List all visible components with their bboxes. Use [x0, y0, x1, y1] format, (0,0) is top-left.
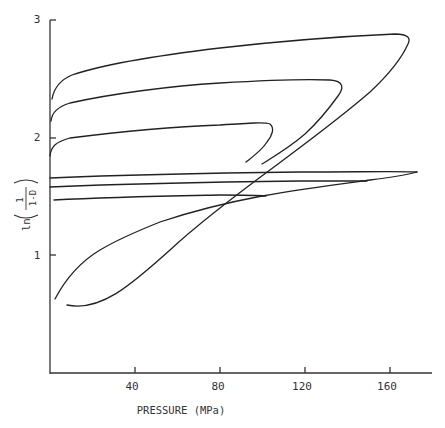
series-lower-rising — [55, 172, 417, 299]
x-tick-label-40: 40 — [125, 380, 138, 393]
series-upper-loop-3 — [50, 123, 273, 162]
y-tick-label-3: 3 — [34, 13, 41, 26]
y-axis-title-ln: ln — [20, 218, 32, 231]
y-axis-title-denominator: 1-D — [28, 190, 38, 206]
chart: 3 2 1 40 80 120 160 PRESSURE (MPa) ln 1 … — [0, 0, 445, 428]
y-axis-title-numerator: 1 — [15, 197, 25, 202]
x-axis-title: PRESSURE (MPa) — [137, 404, 226, 416]
x-tick-label-80: 80 — [211, 380, 224, 393]
series-lower-flat-1 — [50, 172, 417, 178]
series-lower-flat-2 — [50, 181, 367, 187]
y-axis-title-paren-right — [14, 180, 38, 183]
series-upper-loop-2 — [51, 80, 342, 164]
x-tick-label-120: 120 — [292, 380, 312, 393]
series-upper-loop-1 — [52, 34, 409, 306]
y-tick-label-2: 2 — [34, 131, 41, 144]
plot-curves — [50, 34, 417, 306]
x-axis: 40 80 120 160 PRESSURE (MPa) — [50, 367, 432, 416]
y-axis-title-paren-left — [14, 215, 38, 218]
y-tick-label-1: 1 — [34, 249, 41, 262]
y-axis-title: ln 1 1-D — [14, 180, 38, 231]
x-tick-label-160: 160 — [377, 380, 397, 393]
